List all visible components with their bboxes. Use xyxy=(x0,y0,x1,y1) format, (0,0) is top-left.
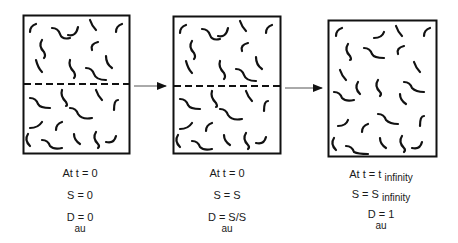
s-subscript: infinity xyxy=(382,192,410,203)
time-label: At t = t xyxy=(349,168,381,180)
s-label: S = S xyxy=(213,189,240,201)
d-label: D = 0 xyxy=(67,211,94,223)
stage-2-box xyxy=(174,17,281,154)
time-subscript: infinity xyxy=(384,172,412,183)
diffusion-diagram xyxy=(0,0,458,160)
d-label: D = S/S xyxy=(208,211,246,223)
stage-2-caption: At t = 0 S = S D = S/Sau xyxy=(177,167,277,233)
d-subscript: au xyxy=(30,224,130,233)
time-label: At t = 0 xyxy=(209,167,244,179)
stage-3-caption: At t = t infinity S = S infinity D = 1au xyxy=(320,168,442,230)
d-subscript: au xyxy=(177,224,277,233)
s-label: S = S xyxy=(352,188,379,200)
stage-1-box xyxy=(24,16,130,154)
d-subscript: au xyxy=(320,221,442,230)
s-label: S = 0 xyxy=(67,189,93,201)
d-label: D = 1 xyxy=(368,208,395,220)
stage-3-box xyxy=(329,21,437,157)
stage-1-caption: At t = 0 S = 0 D = 0au xyxy=(30,167,130,233)
time-label: At t = 0 xyxy=(62,167,97,179)
